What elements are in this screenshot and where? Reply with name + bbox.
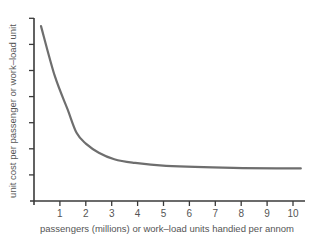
cost-curve-chart: 12345678910 passengers (millions) or wor…: [0, 0, 313, 243]
x-tick-label: 1: [57, 208, 63, 219]
x-tick-label: 3: [109, 208, 115, 219]
x-tick-label: 2: [83, 208, 89, 219]
y-axis-label: unit cost per passenger or work–load uni…: [7, 24, 18, 198]
x-tick-label: 9: [264, 208, 270, 219]
x-tick-label: 10: [287, 208, 299, 219]
x-tick-label: 7: [213, 208, 219, 219]
x-axis: [30, 201, 305, 206]
x-tick-label: 6: [187, 208, 193, 219]
x-tick-labels: 12345678910: [57, 208, 299, 219]
unit-cost-curve: [41, 26, 301, 168]
y-axis: [29, 18, 34, 205]
x-axis-label: passengers (millions) or work–load units…: [40, 223, 294, 234]
x-tick-label: 8: [238, 208, 244, 219]
x-tick-label: 4: [135, 208, 141, 219]
x-tick-label: 5: [161, 208, 167, 219]
